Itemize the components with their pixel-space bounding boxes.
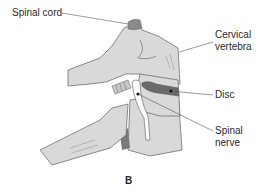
joint-capsule xyxy=(112,80,131,94)
lower-vertebra-lamina xyxy=(40,104,128,165)
label-nerve-line2: nerve xyxy=(215,137,243,149)
leader-spinal-cord xyxy=(62,13,128,24)
label-disc: Disc xyxy=(215,89,234,101)
spinal-cord-shape xyxy=(128,19,142,29)
panel-letter: B xyxy=(125,175,132,186)
leader-cervical-vertebra xyxy=(179,42,213,52)
label-spinal-cord: Spinal cord xyxy=(12,7,62,19)
label-spinal-nerve: Spinal nerve xyxy=(215,125,243,149)
label-nerve-line1: Spinal xyxy=(215,125,243,137)
label-cervical-vertebra: Cervical vertebra xyxy=(215,29,252,53)
label-cervical-line1: Cervical xyxy=(215,29,252,41)
label-cervical-line2: vertebra xyxy=(215,41,252,53)
cervical-vertebra xyxy=(68,22,180,86)
